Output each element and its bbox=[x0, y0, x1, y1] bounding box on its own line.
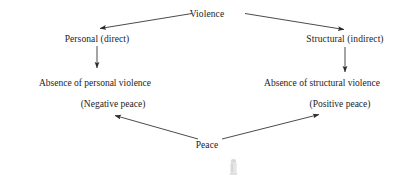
node-absence-structural-violence: Absence of structural violence (Positive… bbox=[264, 77, 380, 110]
absence-structural-violence-line1: Absence of structural violence bbox=[264, 78, 380, 88]
node-violence: Violence bbox=[190, 8, 225, 20]
edge-violence-to-personal bbox=[100, 14, 192, 29]
absence-personal-violence-line1: Absence of personal violence bbox=[39, 78, 151, 88]
negative-peace-label: (Negative peace) bbox=[39, 98, 151, 110]
violence-peace-diagram: Violence Personal (direct) Structural (i… bbox=[0, 0, 417, 183]
node-absence-personal-violence: Absence of personal violence (Negative p… bbox=[39, 77, 151, 110]
edge-peace-to-negative bbox=[115, 116, 198, 140]
positive-peace-label: (Positive peace) bbox=[264, 98, 380, 110]
edge-peace-to-positive bbox=[222, 115, 319, 140]
edge-violence-to-structural bbox=[245, 14, 344, 30]
cursor-artifact-icon bbox=[227, 158, 240, 178]
node-structural-indirect: Structural (indirect) bbox=[306, 33, 383, 45]
node-personal-direct: Personal (direct) bbox=[65, 33, 130, 45]
node-peace: Peace bbox=[196, 139, 219, 151]
